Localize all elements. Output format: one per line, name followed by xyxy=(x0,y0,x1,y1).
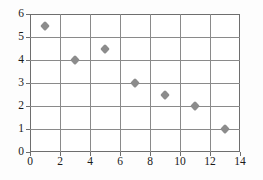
y-tick-label: 1 xyxy=(0,123,24,135)
gridline-horizontal xyxy=(30,129,240,130)
y-tick-mark xyxy=(26,60,30,61)
y-tick-label: 3 xyxy=(0,77,24,89)
y-tick-label: 5 xyxy=(0,31,24,43)
gridline-vertical xyxy=(210,14,211,152)
x-tick-label: 2 xyxy=(48,156,72,168)
y-tick-mark xyxy=(26,129,30,130)
x-tick-label: 12 xyxy=(198,156,222,168)
y-tick-label: 2 xyxy=(0,100,24,112)
gridline-vertical xyxy=(150,14,151,152)
x-tick-label: 8 xyxy=(138,156,162,168)
y-tick-mark xyxy=(26,83,30,84)
gridline-vertical xyxy=(120,14,121,152)
y-tick-mark xyxy=(26,14,30,15)
y-tick-mark xyxy=(26,37,30,38)
x-tick-label: 0 xyxy=(18,156,42,168)
x-tick-label: 10 xyxy=(168,156,192,168)
x-tick-label: 6 xyxy=(108,156,132,168)
y-tick-label: 6 xyxy=(0,8,24,20)
gridline-horizontal xyxy=(30,37,240,38)
y-tick-label: 4 xyxy=(0,54,24,66)
gridline-vertical xyxy=(60,14,61,152)
gridline-horizontal xyxy=(30,106,240,107)
x-tick-label: 14 xyxy=(228,156,252,168)
gridline-horizontal xyxy=(30,60,240,61)
y-tick-mark xyxy=(26,106,30,107)
gridline-vertical xyxy=(90,14,91,152)
scatter-chart: 0123456 02468101214 xyxy=(0,0,263,180)
x-tick-label: 4 xyxy=(78,156,102,168)
gridline-vertical xyxy=(180,14,181,152)
